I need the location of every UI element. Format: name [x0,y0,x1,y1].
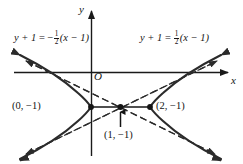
asymptote-equation-left-lhs: y + 1 [14,32,36,43]
asymptote-equation-right-lhs: y + 1 [140,32,162,43]
asymptote-equation-left-denominator: 2 [54,38,60,46]
vertex-left-point [88,104,94,110]
y-axis-label: y [79,4,84,15]
asymptote-equation-left-rhs: (x − 1) [60,32,89,43]
center-point [118,104,124,110]
asymptote-equation-left-numerator: 1 [54,31,60,38]
origin-label: O [94,71,102,82]
x-axis-label: x [231,75,236,86]
vertex-right-point [147,104,153,110]
asymptote-equation-right-denominator: 2 [174,38,180,46]
asymptote-equation-right-fraction: 1 2 [174,31,180,47]
hyperbola-figure: y + 1 = − 1 2 (x − 1) y + 1 = 1 2 (x − 1… [0,0,243,164]
asymptote-equation-left-fraction: 1 2 [54,31,60,47]
asymptote-equation-left-sign: − [47,32,53,43]
hyperbola-branch-arrow-ends [20,158,221,161]
asymptote-equation-right-numerator: 1 [174,31,180,38]
vertex-right-label: (2, −1) [156,101,185,112]
center-label: (1, −1) [104,130,133,141]
asymptote-equation-left: y + 1 = − 1 2 (x − 1) [14,31,89,47]
asymptote-equation-right-rhs: (x − 1) [180,32,209,43]
asymptote-equation-right: y + 1 = 1 2 (x − 1) [140,31,209,47]
vertex-left-label: (0, −1) [12,101,41,112]
